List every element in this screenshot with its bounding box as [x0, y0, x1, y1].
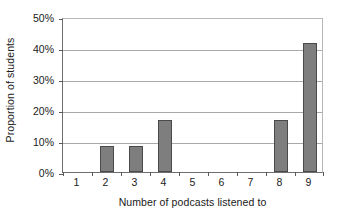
- x-tick-label: 4: [161, 176, 167, 188]
- bar: [129, 146, 143, 172]
- y-tick-label: 50%: [33, 12, 54, 24]
- bar: [274, 120, 288, 172]
- x-tickmark: [323, 172, 324, 176]
- y-axis-title-text: Proportion of students: [4, 38, 16, 143]
- x-tick-label: 5: [190, 176, 196, 188]
- plot-area: [62, 18, 323, 173]
- x-tick-label: 1: [74, 176, 80, 188]
- y-tick-label: 40%: [33, 43, 54, 55]
- x-tick-label: 6: [219, 176, 225, 188]
- y-tick-label: 10%: [33, 136, 54, 148]
- x-axis-title: Number of podcasts listened to: [62, 196, 323, 208]
- bar: [303, 43, 317, 172]
- x-tick-label: 3: [132, 176, 138, 188]
- y-tick-label: 0%: [39, 167, 54, 179]
- x-tick-label: 9: [306, 176, 312, 188]
- x-axis-tick-labels: 123456789: [62, 176, 323, 192]
- y-tick-label: 20%: [33, 105, 54, 117]
- bar-chart: Proportion of students 0%10%20%30%40%50%…: [0, 0, 340, 224]
- x-tick-label: 7: [248, 176, 254, 188]
- x-tick-label: 8: [277, 176, 283, 188]
- bar: [158, 120, 172, 172]
- y-axis-tick-labels: 0%10%20%30%40%50%: [20, 18, 58, 173]
- bars-group: [63, 19, 322, 172]
- y-axis-title: Proportion of students: [0, 0, 20, 180]
- bar: [100, 146, 114, 172]
- y-tick-label: 30%: [33, 74, 54, 86]
- x-tick-label: 2: [103, 176, 109, 188]
